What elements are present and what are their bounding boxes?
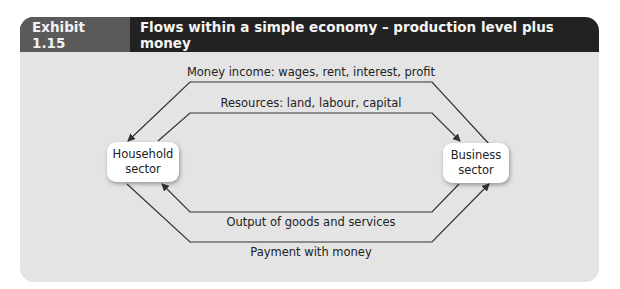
flow-label-payment: Payment with money bbox=[250, 245, 371, 259]
flow-label-money-income: Money income: wages, rent, interest, pro… bbox=[187, 65, 435, 79]
flow-arrow-payment bbox=[127, 184, 489, 242]
business-sector-node: Business sector bbox=[443, 143, 509, 183]
business-label-line1: Business bbox=[443, 148, 509, 163]
business-label-line2: sector bbox=[443, 163, 509, 178]
flow-arrow-output bbox=[162, 184, 459, 212]
flow-label-resources: Resources: land, labour, capital bbox=[221, 96, 402, 110]
household-label-line2: sector bbox=[107, 162, 179, 177]
household-sector-node: Household sector bbox=[107, 142, 179, 182]
flow-arrow-resources bbox=[158, 113, 460, 141]
household-label-line1: Household bbox=[107, 147, 179, 162]
flow-label-output: Output of goods and services bbox=[226, 215, 395, 229]
